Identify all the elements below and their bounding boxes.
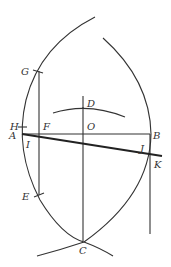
label-a: A [8,130,16,141]
right-arc [37,38,151,256]
label-k: K [153,159,162,170]
label-f: F [42,121,51,132]
geometric-construction-diagram: G H A F I D O B J K E C [0,0,171,267]
label-i: I [25,139,31,150]
label-e: E [21,191,30,202]
label-j: J [138,143,145,154]
label-d: D [86,98,95,109]
label-c: C [79,245,87,256]
label-g: G [21,66,29,77]
arc-through-d [53,108,125,117]
label-b: B [152,130,160,141]
label-o: O [87,121,95,132]
